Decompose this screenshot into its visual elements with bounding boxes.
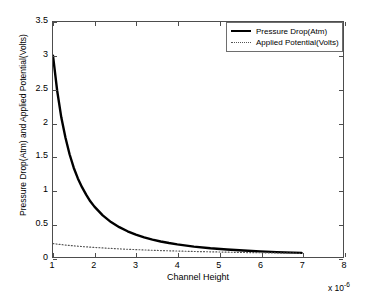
- y-tick-mark-right: [339, 225, 343, 226]
- x-tick-mark: [53, 253, 54, 257]
- y-tick-mark: [53, 157, 57, 158]
- x-tick-mark: [95, 253, 96, 257]
- y-tick-mark-right: [339, 56, 343, 57]
- y-tick-mark-right: [339, 90, 343, 91]
- legend-swatch-solid-line-icon: [230, 27, 252, 35]
- x-tick-mark-top: [220, 22, 221, 26]
- x-axis-exponent-label: x 10-6: [328, 281, 350, 293]
- x-axis-label: Channel Height: [52, 272, 344, 282]
- y-tick-mark: [53, 124, 57, 125]
- x-tick-label: 4: [162, 260, 192, 270]
- y-tick-mark: [53, 56, 57, 57]
- plot-area: [52, 21, 344, 258]
- x-tick-mark: [303, 253, 304, 257]
- exponent-base: x 10: [328, 283, 344, 293]
- x-tick-mark: [136, 253, 137, 257]
- legend-box: Pressure Drop(Atm) Applied Potential(Vol…: [226, 22, 343, 52]
- data-series-svg: [53, 22, 343, 257]
- figure-canvas: 12345678 00.511.522.533.5 Channel Height…: [0, 0, 368, 302]
- x-tick-mark: [178, 253, 179, 257]
- x-tick-mark: [220, 253, 221, 257]
- x-tick-label: 7: [287, 260, 317, 270]
- y-axis-label: Pressure Drop(Atm) and Applied Potential…: [18, 10, 28, 240]
- y-tick-mark-right: [339, 191, 343, 192]
- x-tick-label: 2: [79, 260, 109, 270]
- x-tick-mark-top: [95, 22, 96, 26]
- data-series-line-1: [53, 56, 302, 253]
- x-tick-mark-top: [178, 22, 179, 26]
- y-tick-mark: [53, 22, 57, 23]
- x-tick-mark-top: [136, 22, 137, 26]
- y-tick-label: 0: [16, 253, 48, 262]
- y-tick-mark: [53, 225, 57, 226]
- y-tick-mark-right: [339, 124, 343, 125]
- legend-item-applied-potential: Applied Potential(Volts): [230, 37, 339, 47]
- legend-label-applied-potential: Applied Potential(Volts): [256, 38, 339, 47]
- y-tick-mark-right: [339, 157, 343, 158]
- x-tick-label: 6: [246, 260, 276, 270]
- x-tick-mark-top: [345, 22, 346, 26]
- x-tick-label: 3: [120, 260, 150, 270]
- x-tick-label: 5: [204, 260, 234, 270]
- x-tick-label: 8: [329, 260, 359, 270]
- legend-swatch-dotted-line-icon: [230, 38, 252, 46]
- x-tick-mark: [262, 253, 263, 257]
- legend-item-pressure-drop: Pressure Drop(Atm): [230, 26, 339, 36]
- x-tick-mark: [345, 253, 346, 257]
- y-tick-mark: [53, 191, 57, 192]
- y-tick-mark: [53, 90, 57, 91]
- exponent-power: -6: [344, 281, 350, 288]
- legend-label-pressure-drop: Pressure Drop(Atm): [256, 27, 327, 36]
